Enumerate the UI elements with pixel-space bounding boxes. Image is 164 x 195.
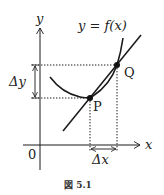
point-q [114, 62, 120, 68]
point-q-label: Q [124, 65, 135, 80]
guide-lines [32, 65, 117, 152]
secant-line [63, 35, 141, 131]
delta-y-label: Δy [8, 74, 26, 89]
y-axis-label: y [35, 11, 44, 26]
curve-label: y = f(x) [77, 18, 127, 33]
axes [23, 28, 140, 170]
figure-caption: 図 5.1 [64, 180, 92, 190]
delta-x-label: Δx [91, 152, 109, 167]
derivative-diagram: y x 0 y = f(x) Q P Δy Δx 図 5.1 [0, 0, 164, 195]
origin-label: 0 [28, 147, 36, 162]
function-curve [50, 38, 123, 98]
delta-y-bracket [31, 65, 39, 98]
x-axis-label: x [145, 137, 153, 152]
point-p-label: P [93, 99, 102, 114]
